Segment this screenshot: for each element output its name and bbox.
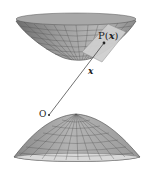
point-label-prefix: P( xyxy=(98,30,109,41)
lower-sheet xyxy=(14,114,140,162)
origin-marker xyxy=(48,114,50,116)
vector-label: x xyxy=(88,67,93,76)
origin-label: O xyxy=(39,110,46,119)
point-label-suffix: ) xyxy=(115,30,119,41)
hyperboloid-diagram xyxy=(0,0,151,172)
point-label: P(x) xyxy=(98,31,119,41)
